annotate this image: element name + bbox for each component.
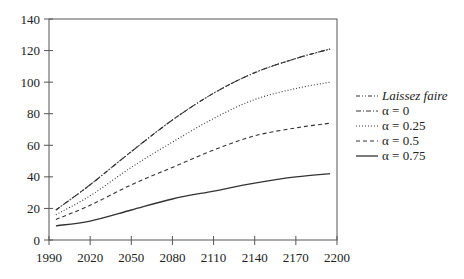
legend-swatch-dash-dot-icon — [356, 106, 378, 116]
y-tick-label: 0 — [34, 233, 41, 248]
legend-label: α = 0.25 — [382, 118, 425, 134]
legend-swatch-dashed-icon — [356, 136, 378, 146]
legend-label: α = 0.75 — [382, 148, 425, 164]
legend-item-laissez-faire: Laissez faire — [356, 88, 448, 103]
y-tick-label: 40 — [27, 169, 40, 184]
series-line — [56, 49, 330, 210]
series-line — [56, 49, 330, 210]
legend-swatch-dash-dot-dot-icon — [356, 91, 378, 101]
legend-item-alpha-0: α = 0 — [356, 103, 448, 118]
x-tick-label: 2200 — [324, 250, 350, 265]
y-tick-label: 20 — [27, 201, 40, 216]
legend-item-alpha-0-25: α = 0.25 — [356, 118, 448, 133]
x-tick-label: 2110 — [201, 250, 227, 265]
x-tick-label: 2050 — [118, 250, 144, 265]
legend-label: α = 0.5 — [382, 133, 419, 149]
y-tick-label: 100 — [21, 75, 41, 90]
series-line — [56, 123, 330, 219]
axes: 0204060801001201401990202020502080211021… — [21, 12, 351, 266]
x-tick-label: 1990 — [36, 250, 62, 265]
legend-label: α = 0 — [382, 103, 409, 119]
series-line — [56, 174, 330, 226]
plot-frame — [49, 19, 337, 240]
x-tick-label: 2080 — [159, 250, 185, 265]
legend-label: Laissez faire — [382, 88, 448, 104]
x-tick-label: 2020 — [77, 250, 103, 265]
y-tick-label: 140 — [21, 12, 41, 27]
y-tick-label: 60 — [27, 138, 40, 153]
legend-item-alpha-0-5: α = 0.5 — [356, 134, 448, 149]
legend-item-alpha-0-75: α = 0.75 — [356, 149, 448, 164]
legend-swatch-solid-icon — [356, 151, 378, 161]
y-tick-label: 120 — [21, 43, 41, 58]
y-tick-label: 80 — [27, 106, 40, 121]
legend-swatch-dotted-icon — [356, 121, 378, 131]
chart-lines — [56, 49, 330, 226]
x-tick-label: 2140 — [242, 250, 268, 265]
x-tick-label: 2170 — [283, 250, 309, 265]
legend: Laissez faire α = 0 α = 0.25 α = 0.5 α =… — [356, 88, 448, 164]
